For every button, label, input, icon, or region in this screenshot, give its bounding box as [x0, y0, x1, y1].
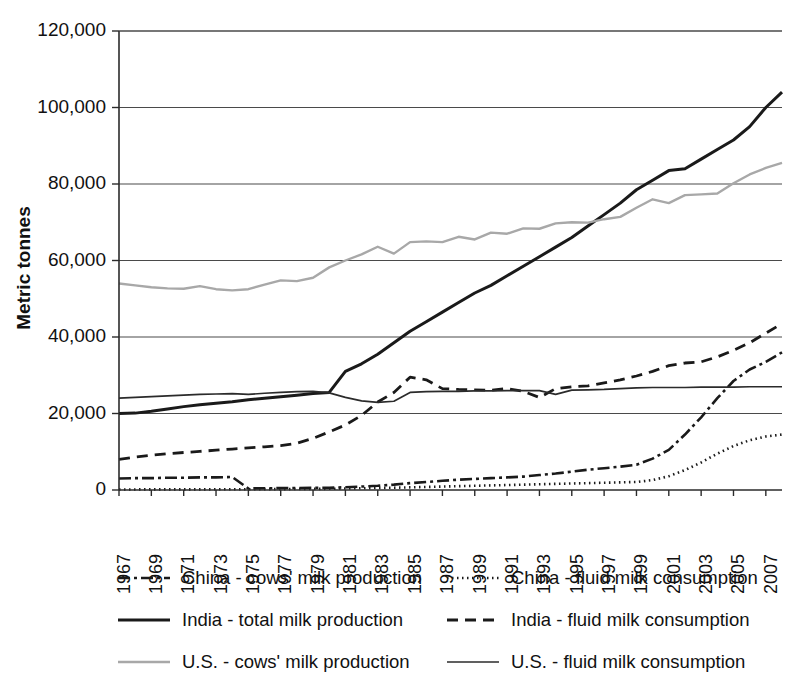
x-tick-label: 1969	[146, 554, 166, 594]
series-line-us-fluid-milk-consumption	[119, 387, 782, 403]
legend-item-us-cows-milk-production[interactable]: U.S. - cows' milk production	[118, 651, 410, 672]
x-tick-label: 2007	[761, 554, 781, 594]
y-tick-label: 60,000	[48, 249, 106, 270]
y-axis-ticks-group: 120,000100,00080,00060,00040,00020,0000	[37, 19, 119, 499]
legend-label-china-cows-milk-production: China - cows' milk production	[182, 567, 422, 588]
legend-label-india-total-milk-production: India - total milk production	[182, 609, 403, 630]
y-tick-label: 0	[95, 478, 106, 499]
y-axis-title: Metric tonnes	[13, 206, 34, 330]
data-series-group	[119, 92, 782, 489]
legend-item-us-fluid-milk-consumption[interactable]: U.S. - fluid milk consumption	[447, 651, 745, 672]
series-line-china-cows-milk-production	[119, 352, 782, 488]
legend-label-india-fluid-milk-consumption: India - fluid milk consumption	[511, 609, 750, 630]
x-tick-label: 1967	[114, 554, 134, 594]
series-line-china-fluid-milk-consumption	[119, 435, 782, 490]
milk-production-chart: 120,000100,00080,00060,00040,00020,0000 …	[0, 0, 795, 698]
y-tick-label: 120,000	[37, 19, 106, 40]
legend-item-india-total-milk-production[interactable]: India - total milk production	[118, 609, 403, 630]
y-tick-label: 100,000	[37, 96, 106, 117]
legend-item-china-fluid-milk-consumption[interactable]: China - fluid milk consumption	[447, 567, 758, 588]
gridlines-group	[119, 31, 782, 414]
legend-item-india-fluid-milk-consumption[interactable]: India - fluid milk consumption	[447, 609, 750, 630]
y-tick-label: 20,000	[48, 402, 106, 423]
legend-label-china-fluid-milk-consumption: China - fluid milk consumption	[511, 567, 758, 588]
x-tick-label: 1987	[437, 554, 457, 594]
legend-label-us-cows-milk-production: U.S. - cows' milk production	[182, 651, 410, 672]
legend-label-us-fluid-milk-consumption: U.S. - fluid milk consumption	[511, 651, 745, 672]
y-axis-title-group: Metric tonnes	[13, 206, 34, 330]
y-tick-label: 40,000	[48, 325, 106, 346]
series-line-india-total-milk-production	[119, 92, 782, 413]
chart-figure: 120,000100,00080,00060,00040,00020,0000 …	[0, 0, 795, 698]
y-tick-label: 80,000	[48, 172, 106, 193]
series-line-us-cows-milk-production	[119, 163, 782, 290]
x-tick-label: 1989	[470, 554, 490, 594]
